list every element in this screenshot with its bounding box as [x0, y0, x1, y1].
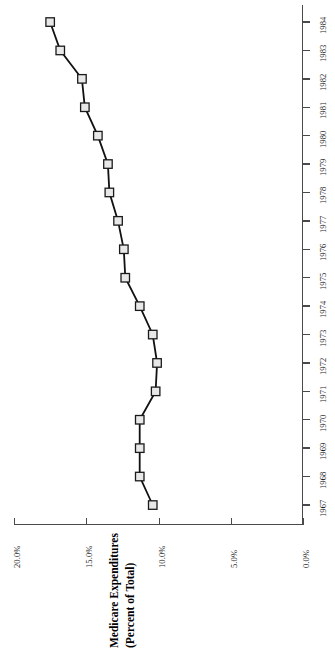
data-point-marker-1974 — [136, 302, 145, 311]
data-point-marker-1970 — [136, 416, 145, 425]
data-point-marker-1975 — [121, 274, 130, 283]
data-point-marker-1969 — [136, 444, 145, 453]
data-point-marker-1977 — [114, 217, 123, 226]
data-point-marker-1982 — [78, 75, 87, 84]
data-point-marker-1980 — [94, 131, 103, 140]
data-point-marker-1971 — [151, 387, 160, 396]
data-series-medicare-expenditures — [0, 0, 335, 663]
data-point-marker-1972 — [153, 359, 162, 368]
series-line — [50, 22, 157, 505]
data-point-marker-1967 — [149, 501, 158, 510]
chart-figure: Medicare Expenditures (Percent of Total)… — [0, 0, 335, 663]
data-point-marker-1983 — [56, 46, 65, 55]
data-point-marker-1973 — [149, 330, 158, 339]
data-point-marker-1979 — [104, 160, 113, 169]
data-point-marker-1968 — [136, 472, 145, 481]
data-point-marker-1978 — [105, 188, 114, 197]
data-point-marker-1976 — [120, 245, 129, 254]
data-point-marker-1981 — [81, 103, 90, 112]
data-point-marker-1984 — [46, 18, 55, 27]
